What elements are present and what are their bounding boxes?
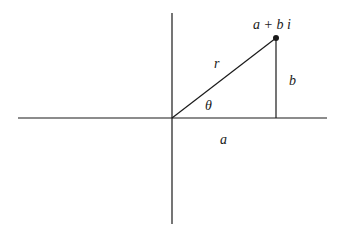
complex-plane-diagram: a + b i r θ a b xyxy=(0,0,342,235)
complex-point xyxy=(273,35,279,41)
angle-label: θ xyxy=(205,98,212,113)
radius-line xyxy=(172,38,276,118)
imag-part-label: b xyxy=(289,73,296,88)
real-part-label: a xyxy=(220,132,227,147)
radius-label: r xyxy=(214,56,220,71)
point-label: a + b i xyxy=(253,17,291,32)
